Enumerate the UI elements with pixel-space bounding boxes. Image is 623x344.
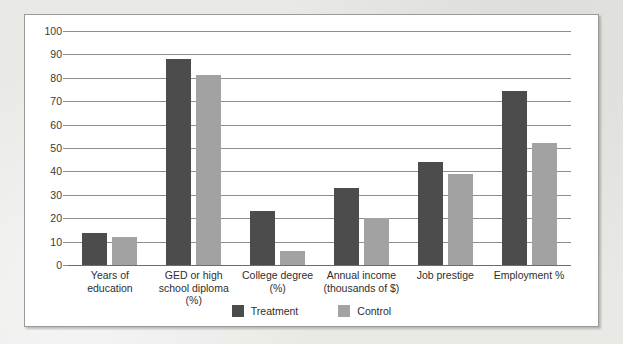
y-axis-tick-label: 30 — [50, 190, 62, 201]
legend-entry-control: Control — [338, 305, 391, 317]
x-axis-label-line: (%) — [236, 282, 320, 295]
y-axis-tick-label: 60 — [50, 119, 62, 130]
x-axis-label-5: Employment % — [487, 269, 571, 282]
x-axis-label-line: education — [68, 282, 152, 295]
y-axis-tick-label: 40 — [50, 166, 62, 177]
y-axis-tick-label: 50 — [50, 143, 62, 154]
x-axis-label-line: Years of — [68, 269, 152, 282]
x-axis-label-line: Annual income — [320, 269, 404, 282]
bar-treatment-4 — [418, 162, 443, 265]
x-axis-label-line: GED or high — [152, 269, 236, 282]
x-axis-label-4: Job prestige — [403, 269, 487, 282]
legend-swatch-icon — [338, 305, 350, 317]
chart-legend: TreatmentControl — [25, 305, 598, 317]
x-axis-label-0: Years ofeducation — [68, 269, 152, 294]
y-axis-tick-label: 90 — [50, 49, 62, 60]
bars-layer — [68, 31, 571, 265]
bar-control-0 — [112, 237, 137, 265]
figure-root: 1009080706050403020100 Years ofeducation… — [0, 0, 623, 344]
x-axis-label-1: GED or highschool diploma(%) — [152, 269, 236, 307]
bar-control-3 — [364, 218, 389, 265]
legend-swatch-icon — [232, 305, 244, 317]
y-axis-tick-label: 20 — [50, 213, 62, 224]
bar-treatment-1 — [166, 59, 191, 265]
plot-area: 1009080706050403020100 — [68, 31, 571, 265]
y-axis-tick-label: 10 — [50, 236, 62, 247]
x-axis-label-line: Job prestige — [403, 269, 487, 282]
bar-control-1 — [196, 75, 221, 265]
bar-control-2 — [280, 251, 305, 265]
y-axis-tick — [63, 265, 68, 266]
legend-label: Control — [357, 306, 391, 317]
x-axis-label-line: school diploma — [152, 282, 236, 295]
bar-treatment-2 — [250, 211, 275, 265]
y-axis-tick-label: 0 — [56, 260, 62, 271]
x-axis-label-line: Employment % — [487, 269, 571, 282]
legend-entry-treatment: Treatment — [232, 305, 298, 317]
bar-treatment-5 — [502, 91, 527, 265]
bar-treatment-3 — [334, 188, 359, 265]
x-axis-label-2: College degree(%) — [236, 269, 320, 294]
x-axis-label-line: (thousands of $) — [320, 282, 404, 295]
y-axis-tick-label: 80 — [50, 73, 62, 84]
x-axis-label-line: College degree — [236, 269, 320, 282]
y-axis-tick-label: 70 — [50, 96, 62, 107]
y-axis-tick-label: 100 — [44, 26, 62, 37]
x-axis-label-3: Annual income(thousands of $) — [320, 269, 404, 294]
gridline — [68, 265, 571, 266]
bar-control-5 — [532, 143, 557, 265]
bar-treatment-0 — [82, 233, 107, 265]
legend-label: Treatment — [251, 306, 298, 317]
chart-panel: 1009080706050403020100 Years ofeducation… — [24, 14, 599, 327]
bar-control-4 — [448, 174, 473, 265]
